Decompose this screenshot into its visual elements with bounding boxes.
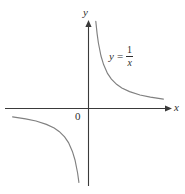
y-axis — [85, 20, 91, 186]
fraction-numerator: 1 — [126, 45, 133, 56]
equation-equals-sign: = — [117, 51, 123, 62]
x-axis-label: x — [174, 102, 179, 113]
hyperbola-figure: y x 0 y = 1 x — [0, 0, 185, 194]
y-axis-label: y — [83, 7, 88, 18]
equation-fraction: 1 x — [126, 45, 133, 68]
curve-branch-lower-left — [13, 117, 79, 183]
equation-lhs: y — [109, 51, 114, 62]
origin-label: 0 — [75, 111, 81, 122]
x-axis-arrowhead — [165, 105, 172, 111]
equation-annotation: y = 1 x — [109, 45, 133, 68]
fraction-denominator: x — [126, 57, 132, 68]
y-axis-arrowhead — [85, 20, 91, 27]
graph-canvas — [0, 0, 185, 194]
